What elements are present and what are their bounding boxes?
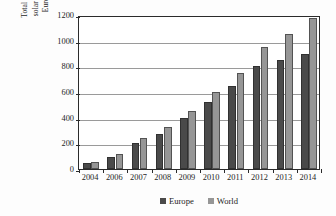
bars-layer [79, 17, 319, 169]
bar-group-2007 [127, 17, 151, 169]
bar-world-2012 [261, 47, 269, 169]
legend-entry-world[interactable]: World [208, 197, 238, 206]
bar-group-2006 [103, 17, 127, 169]
x-axis-tick-labels: 2004200620072008200920102011201220132014 [78, 172, 320, 186]
bar-world-2007 [140, 138, 148, 169]
bar-group-2014 [297, 17, 321, 169]
legend-entry-europe[interactable]: Europe [160, 197, 194, 206]
bar-europe-2010 [204, 102, 212, 169]
bar-group-2011 [224, 17, 248, 169]
legend-label-europe: Europe [169, 197, 194, 206]
x-tick-label-2011: 2011 [223, 172, 247, 183]
bar-europe-2014 [301, 54, 309, 170]
plot-area [78, 16, 320, 170]
legend-label-world: World [217, 197, 238, 206]
bar-europe-2012 [253, 66, 261, 169]
y-axis-title-line-2: solar cooling systems in [31, 0, 41, 16]
y-tick-label-200: 200 [47, 140, 74, 148]
bar-group-2004 [79, 17, 103, 169]
bar-world-2011 [237, 73, 245, 169]
y-tick-label-600: 600 [47, 89, 74, 97]
bar-world-2006 [116, 154, 124, 169]
bar-europe-2006 [107, 157, 115, 169]
y-axis-tick-labels: 020040060080010001200 [47, 16, 74, 170]
x-tick-label-2004: 2004 [78, 172, 102, 183]
x-tick-label-2010: 2010 [199, 172, 223, 183]
y-tick-label-1200: 1200 [47, 12, 74, 20]
bar-europe-2008 [156, 134, 164, 169]
chart-figure: Total amount of installed solar cooling … [0, 0, 336, 216]
bar-group-2008 [152, 17, 176, 169]
x-tickmark-2014 [321, 169, 322, 173]
x-tick-label-2006: 2006 [102, 172, 126, 183]
bar-europe-2004 [83, 163, 91, 169]
y-tick-label-400: 400 [47, 114, 74, 122]
bar-europe-2011 [228, 86, 236, 169]
x-tick-label-2013: 2013 [272, 172, 296, 183]
x-tick-label-2007: 2007 [126, 172, 150, 183]
x-tick-label-2012: 2012 [247, 172, 271, 183]
bar-world-2004 [91, 162, 99, 169]
bar-world-2009 [188, 111, 196, 169]
y-axis-title-line-1: Total amount of installed [20, 0, 30, 18]
y-tick-label-0: 0 [47, 166, 74, 174]
bar-group-2009 [176, 17, 200, 169]
bar-world-2013 [285, 34, 293, 169]
x-tick-label-2014: 2014 [296, 172, 320, 183]
bar-group-2012 [248, 17, 272, 169]
bar-world-2010 [212, 92, 220, 169]
bar-world-2008 [164, 127, 172, 169]
chart-legend: EuropeWorld [78, 194, 320, 208]
y-axis-title-line-3: Europe and the world [41, 0, 51, 12]
bar-group-2010 [200, 17, 224, 169]
bar-europe-2009 [180, 118, 188, 169]
bar-europe-2013 [277, 60, 285, 169]
legend-swatch-world [208, 198, 214, 204]
y-tick-label-1000: 1000 [47, 37, 74, 45]
legend-swatch-europe [160, 198, 166, 204]
bar-group-2013 [273, 17, 297, 169]
y-tick-label-800: 800 [47, 63, 74, 71]
bar-europe-2007 [132, 143, 140, 169]
x-tick-label-2008: 2008 [151, 172, 175, 183]
x-tick-label-2009: 2009 [175, 172, 199, 183]
bar-world-2014 [309, 18, 317, 169]
